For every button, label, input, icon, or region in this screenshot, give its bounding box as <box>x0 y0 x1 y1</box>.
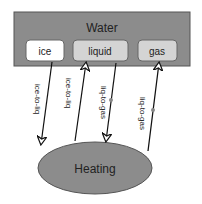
state-gas[interactable]: gas <box>138 40 177 61</box>
edge-waypoint-icon <box>151 108 155 112</box>
edge-ice-to-heating[interactable]: ice-to-liq <box>33 62 52 144</box>
state-ice-label: ice <box>39 46 52 57</box>
water-title: Water <box>86 21 118 35</box>
edge-liquid-to-heating[interactable]: liq-to-gas <box>99 63 116 141</box>
state-ice[interactable]: ice <box>26 40 64 61</box>
heating-label: Heating <box>74 162 115 176</box>
edge-waypoint-icon <box>109 98 113 102</box>
edge-heating-to-liquid[interactable]: ice-to-liq <box>64 63 86 141</box>
edge-label: ice-to-liq <box>33 84 42 114</box>
process-heating[interactable]: Heating <box>38 142 152 194</box>
diagram-canvas: Water ice liquid gas Heating ice-to-liq … <box>0 0 202 204</box>
edge-label: ice-to-liq <box>64 78 73 108</box>
edge-label: liq-to-gas <box>138 97 147 130</box>
state-liquid[interactable]: liquid <box>73 40 128 61</box>
edge-heating-to-gas[interactable]: liq-to-gas <box>138 63 159 151</box>
state-gas-label: gas <box>149 46 165 57</box>
state-liquid-label: liquid <box>88 46 111 57</box>
edge-label: liq-to-gas <box>99 86 108 119</box>
